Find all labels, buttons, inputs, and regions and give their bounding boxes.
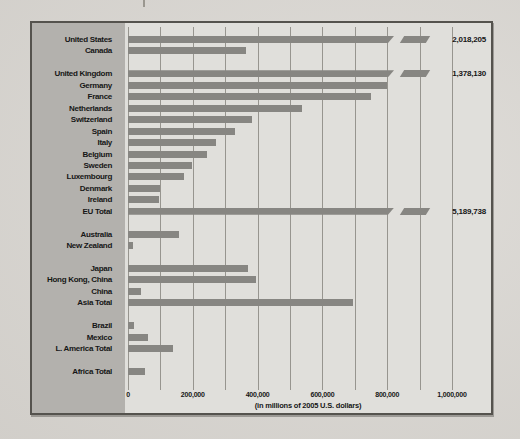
bar xyxy=(128,128,235,135)
row-label: Africa Total xyxy=(32,366,112,377)
x-tick-label: 1,000,000 xyxy=(437,391,466,398)
bar xyxy=(128,334,148,341)
bar xyxy=(128,185,160,192)
bar xyxy=(128,276,256,283)
bar-broken xyxy=(128,36,394,43)
bar-chart-figure: United StatesCanadaUnited KingdomGermany… xyxy=(30,21,493,415)
row-label: Denmark xyxy=(32,183,112,194)
bar xyxy=(128,82,387,89)
row-label: Italy xyxy=(32,137,112,148)
stray-print-mark xyxy=(143,0,145,7)
bar xyxy=(128,322,134,329)
bar-broken xyxy=(128,70,394,77)
x-tick-label: 200,000 xyxy=(181,391,205,398)
bar xyxy=(128,93,371,100)
bar-break-segment xyxy=(400,36,430,43)
row-label: Netherlands xyxy=(32,103,112,114)
row-label: Australia xyxy=(32,229,112,240)
bar xyxy=(128,151,207,158)
row-label: Mexico xyxy=(32,332,112,343)
bar xyxy=(128,368,145,375)
category-label-panel: United StatesCanadaUnited KingdomGermany… xyxy=(32,23,125,413)
bar xyxy=(128,288,141,295)
row-label: Ireland xyxy=(32,194,112,205)
row-label: Asia Total xyxy=(32,297,112,308)
x-tick-label: 600,000 xyxy=(310,391,334,398)
bar xyxy=(128,196,159,203)
bar xyxy=(128,47,246,54)
bar-break-segment xyxy=(400,70,430,77)
value-label: 5,189,738 xyxy=(452,207,486,216)
bar xyxy=(128,345,173,352)
x-tick-label: 400,000 xyxy=(246,391,270,398)
bar xyxy=(128,299,353,306)
bar xyxy=(128,231,179,238)
row-label: Sweden xyxy=(32,160,112,171)
row-label: EU Total xyxy=(32,206,112,217)
bar xyxy=(128,162,192,169)
row-label: L. America Total xyxy=(32,343,112,354)
row-label: Spain xyxy=(32,126,112,137)
row-label: France xyxy=(32,91,112,102)
value-label: 2,018,205 xyxy=(452,35,486,44)
bar xyxy=(128,105,302,112)
row-label: China xyxy=(32,286,112,297)
row-label: Brazil xyxy=(32,320,112,331)
row-label: New Zealand xyxy=(32,240,112,251)
row-label: Germany xyxy=(32,80,112,91)
value-label: 1,378,130 xyxy=(452,69,486,78)
book-page: United StatesCanadaUnited KingdomGermany… xyxy=(0,0,520,439)
row-label: Hong Kong, China xyxy=(32,274,112,285)
bar xyxy=(128,173,184,180)
row-label: Canada xyxy=(32,45,112,56)
row-label: United States xyxy=(32,34,112,45)
bar-broken xyxy=(128,208,394,215)
axis-caption: (in millions of 2005 U.S. dollars) xyxy=(255,401,362,410)
bar xyxy=(128,139,216,146)
bar xyxy=(128,116,252,123)
bar xyxy=(128,265,248,272)
row-label: Luxembourg xyxy=(32,171,112,182)
row-label: United Kingdom xyxy=(32,68,112,79)
x-tick-label: 800,000 xyxy=(375,391,399,398)
x-tick-label: 0 xyxy=(126,391,130,398)
row-label: Japan xyxy=(32,263,112,274)
bar-break-segment xyxy=(400,208,430,215)
row-label: Belgium xyxy=(32,149,112,160)
bar xyxy=(128,242,133,249)
row-label: Switzerland xyxy=(32,114,112,125)
